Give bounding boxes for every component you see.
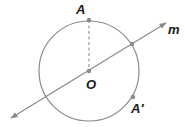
label-o: O <box>86 77 96 92</box>
label-a-prime: A′ <box>130 101 144 116</box>
point-o <box>87 69 91 73</box>
point-a <box>87 18 91 22</box>
point-intersection <box>130 42 134 46</box>
diagram-canvas: A O A′ m <box>0 0 185 127</box>
point-a-prime <box>131 95 135 99</box>
label-a: A <box>75 2 85 17</box>
label-m: m <box>168 22 180 37</box>
